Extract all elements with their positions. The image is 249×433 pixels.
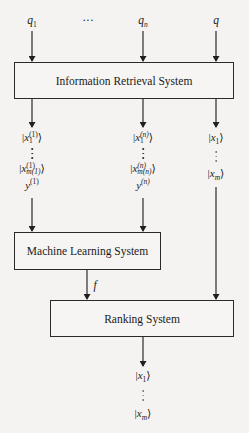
ml-label: Machine Learning System (27, 245, 148, 257)
colq-first-ket: |x1⟩ (208, 131, 223, 146)
col1-last-ket: |x(1)m(1)⟩ (19, 162, 45, 176)
colq-last-ket: |xm⟩ (208, 167, 225, 182)
col1-first-ket: |x(1)1⟩ (22, 131, 42, 145)
col1-vdots (31, 148, 33, 159)
output-last-ket: |xm⟩ (135, 407, 152, 422)
column-q-results: |x1⟩ |xm⟩ (208, 131, 225, 182)
column-1-results: |x(1)1⟩ |x(1)m(1)⟩ y(1) (19, 131, 45, 191)
machine-learning-system-box: Machine Learning System (14, 232, 161, 270)
input-qn: qn (138, 15, 148, 29)
output-vdots (142, 390, 144, 401)
input-ellipsis: ··· (82, 15, 94, 27)
ir-label: Information Retrieval System (56, 75, 193, 87)
col1-y-label: y(1) (25, 177, 39, 191)
output-first-ket: |x1⟩ (135, 369, 150, 384)
retrieval-ml-ranking-diagram: q1 ··· qn q Information Retrieval System… (0, 0, 249, 433)
ranking-label: Ranking System (104, 313, 180, 325)
edge-label-f: f (93, 280, 96, 292)
ranked-output: |x1⟩ |xm⟩ (135, 369, 152, 422)
input-q1: q1 (27, 15, 37, 29)
coln-last-ket: |x(n)m(n)⟩ (130, 162, 156, 176)
colq-vdots (215, 151, 217, 162)
coln-y-label: y(n) (136, 177, 150, 191)
coln-first-ket: |x(n)1⟩ (133, 131, 153, 145)
information-retrieval-system-box: Information Retrieval System (14, 62, 234, 99)
ranking-system-box: Ranking System (50, 300, 234, 337)
column-n-results: |x(n)1⟩ |x(n)m(n)⟩ y(n) (130, 131, 156, 191)
input-q: q (213, 15, 219, 27)
coln-vdots (142, 148, 144, 159)
